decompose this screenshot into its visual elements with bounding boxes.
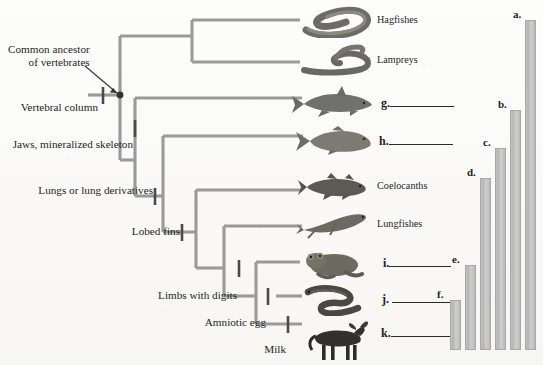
trait-label-amniotic-egg: Amniotic egg (150, 316, 266, 329)
trait-label-vertebral-column: Vertebral column (0, 101, 98, 114)
root-ancestor-label: Common ancestor of vertebrates (8, 43, 90, 69)
lamprey-icon (300, 42, 374, 76)
figure-canvas: Common ancestor of vertebrates Vertebral… (0, 0, 543, 365)
tip-blank-k-letter: k. (381, 326, 391, 340)
trait-label-lobed-fins: Lobed fins (60, 225, 180, 238)
coelacanth-icon (297, 172, 371, 202)
tip-blank-h-line[interactable] (389, 135, 453, 145)
root-node-dot (117, 92, 124, 99)
hagfish-icon (300, 6, 374, 38)
root-leader-arrowhead (110, 88, 117, 93)
trait-label-lungs: Lungs or lung derivatives (0, 184, 153, 197)
tip-blank-k[interactable]: k. (381, 326, 455, 340)
tip-blank-g-letter: g. (381, 96, 390, 110)
trait-label-milk: Milk (210, 343, 286, 356)
tip-blank-i-line[interactable] (389, 257, 451, 267)
tip-blank-g-line[interactable] (390, 97, 454, 107)
tip-blank-h-letter: h. (379, 134, 389, 148)
wildebeest-icon (302, 320, 368, 362)
snake-icon (300, 284, 368, 316)
root-ancestor-label-line2: of vertebrates (8, 56, 90, 69)
root-ancestor-label-line1: Common ancestor (8, 43, 90, 55)
tip-blank-j-line[interactable] (392, 293, 458, 303)
tip-label-coelocanths: Coelocanths (377, 180, 427, 192)
tip-blank-i[interactable]: i. (383, 256, 451, 270)
tip-blank-j-letter: j. (382, 292, 389, 306)
tip-blank-k-line[interactable] (391, 327, 455, 337)
lungfish-icon (296, 208, 372, 240)
ray-finned-fish-icon (294, 126, 374, 156)
shark-icon (292, 86, 374, 118)
frog-icon (300, 248, 368, 280)
trait-label-limbs-with-digits: Limbs with digits (110, 289, 237, 302)
tip-label-lungfishes: Lungfishes (377, 218, 422, 230)
tip-blank-g[interactable]: g. (381, 96, 454, 110)
tip-blank-j[interactable]: j. (382, 292, 458, 306)
root-leader-line (85, 66, 117, 93)
tip-label-lampreys: Lampreys (377, 54, 418, 66)
trait-label-jaws: Jaws, mineralized skeleton (0, 138, 133, 151)
tip-blank-h[interactable]: h. (379, 134, 453, 148)
tip-label-hagfishes: Hagfishes (377, 14, 418, 26)
